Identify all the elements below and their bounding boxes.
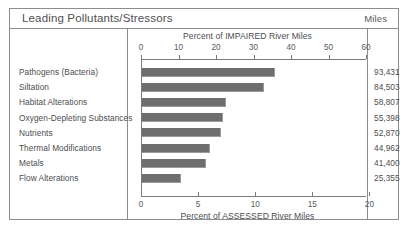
bottom-tick-label: 0 xyxy=(139,200,144,209)
category-label: Habitat Alterations xyxy=(19,97,87,107)
chart-frame: Leading Pollutants/Stressors Miles Patho… xyxy=(9,8,399,220)
top-tick-mark xyxy=(291,55,292,59)
category-label: Thermal Modifications xyxy=(19,143,101,153)
bar xyxy=(142,98,226,107)
bottom-axis-title: Percent of ASSESSED River Miles xyxy=(128,211,367,221)
miles-value-column: 93,43184,50358,80755,39852,87044,96241,4… xyxy=(368,29,398,219)
bottom-tick-label: 15 xyxy=(308,200,317,209)
chart-body: Pathogens (Bacteria)SiltationHabitat Alt… xyxy=(10,29,398,219)
plot-area: Percent of IMPAIRED River Miles 01020304… xyxy=(128,29,367,219)
category-label: Pathogens (Bacteria) xyxy=(19,67,98,77)
top-axis-title: Percent of IMPAIRED River Miles xyxy=(128,31,367,41)
top-tick-label: 0 xyxy=(139,43,144,52)
top-tick-label: 30 xyxy=(249,43,258,52)
miles-value: 93,431 xyxy=(374,67,400,77)
bottom-tick-label: 10 xyxy=(251,200,260,209)
miles-value: 44,962 xyxy=(374,143,400,153)
page-title: Leading Pollutants/Stressors xyxy=(22,12,173,24)
bottom-axis-line xyxy=(141,196,366,197)
top-tick-label: 50 xyxy=(324,43,333,52)
miles-column-header: Miles xyxy=(364,13,387,24)
category-label-column: Pathogens (Bacteria)SiltationHabitat Alt… xyxy=(10,29,127,219)
top-tick-label: 10 xyxy=(174,43,183,52)
bottom-tick-label: 5 xyxy=(196,200,201,209)
miles-value: 55,398 xyxy=(374,113,400,123)
miles-value: 84,503 xyxy=(374,82,400,92)
top-tick-mark xyxy=(254,55,255,59)
bar xyxy=(142,174,181,183)
top-tick-mark xyxy=(179,55,180,59)
bar xyxy=(142,128,221,137)
title-band: Leading Pollutants/Stressors Miles xyxy=(10,9,398,29)
top-tick-label: 40 xyxy=(286,43,295,52)
miles-value: 52,870 xyxy=(374,128,400,138)
category-label: Siltation xyxy=(19,82,49,92)
miles-value: 41,400 xyxy=(374,158,400,168)
miles-value: 58,807 xyxy=(374,97,400,107)
bars-group xyxy=(142,60,367,196)
bar xyxy=(142,159,206,168)
top-tick-mark xyxy=(366,55,367,59)
bar xyxy=(142,68,275,77)
bar xyxy=(142,113,223,122)
top-tick-mark xyxy=(329,55,330,59)
category-label: Flow Alterations xyxy=(19,173,78,183)
top-tick-mark xyxy=(216,55,217,59)
miles-value: 25,355 xyxy=(374,173,400,183)
category-label: Metals xyxy=(19,158,44,168)
category-label: Oxygen-Depleting Substances xyxy=(19,113,132,123)
category-label: Nutrients xyxy=(19,128,53,138)
chart-screenshot: Leading Pollutants/Stressors Miles Patho… xyxy=(0,0,408,229)
bar xyxy=(142,144,210,153)
bar xyxy=(142,83,264,92)
top-tick-label: 20 xyxy=(211,43,220,52)
top-tick-mark xyxy=(141,55,142,59)
